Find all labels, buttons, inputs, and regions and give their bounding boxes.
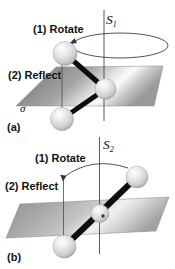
- inversion-center-dot: [101, 214, 104, 217]
- panel-a: (1) Rotate (2) Reflect S1 σ (a): [7, 10, 168, 133]
- step1-rotate-label-b: (1) Rotate: [35, 152, 86, 164]
- atom-sphere-a-top: [53, 42, 77, 66]
- axis-label-s2: S2: [103, 137, 114, 154]
- atom-sphere-b-top: [126, 166, 148, 188]
- sigma-plane-label: σ: [20, 102, 26, 114]
- panel-b-label: (b): [7, 251, 21, 263]
- atom-sphere-b-bottom: [53, 235, 76, 258]
- figure-improper-rotation: (1) Rotate (2) Reflect S1 σ (a) (1): [0, 0, 175, 269]
- atom-sphere-a-middle: [95, 79, 116, 100]
- rotation-arrow-icon-b: [60, 175, 66, 182]
- step1-rotate-label-a: (1) Rotate: [33, 23, 84, 35]
- rotation-arc-icon: [64, 164, 128, 177]
- panel-a-label: (a): [7, 121, 21, 133]
- diagram-canvas: (1) Rotate (2) Reflect S1 σ (a) (1): [0, 0, 175, 269]
- axis-label-s1: S1: [106, 12, 117, 29]
- mirror-plane-b: [6, 197, 169, 238]
- panel-b: (1) Rotate (2) Reflect S2 (b): [5, 137, 169, 263]
- rotation-ellipse-icon: [72, 33, 168, 58]
- step2-reflect-label-a: (2) Reflect: [8, 69, 62, 81]
- step2-reflect-label-b: (2) Reflect: [5, 180, 59, 192]
- atom-sphere-a-bottom: [51, 108, 74, 131]
- atom-sphere-b-center: [91, 205, 109, 223]
